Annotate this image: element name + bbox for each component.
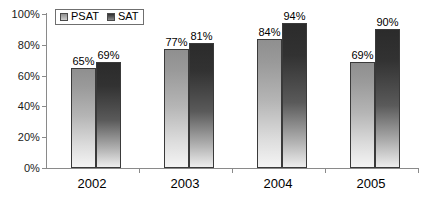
legend-swatch-icon: [107, 13, 115, 21]
legend-swatch-icon: [60, 13, 68, 21]
legend-item-psat: PSAT: [60, 11, 99, 22]
bar-sat-2002: 69%: [96, 62, 121, 168]
bar-chart: 100% 80% 60% 40% 20% 0% 65% 69%: [0, 0, 427, 204]
bar-value-label: 94%: [283, 10, 305, 22]
y-tick-mark: [42, 106, 46, 107]
x-axis-label-2004: 2004: [264, 176, 293, 191]
x-tick-mark: [139, 168, 140, 173]
bar-value-label: 65%: [72, 55, 94, 67]
legend-label-sat: SAT: [118, 11, 139, 22]
y-tick-mark: [42, 137, 46, 138]
legend-item-sat: SAT: [107, 11, 139, 22]
bar-sat-2004: 94%: [282, 23, 307, 168]
bar-value-label: 69%: [97, 49, 119, 61]
bar-sat-2005: 90%: [375, 29, 400, 168]
bar-psat-2003: 77%: [164, 49, 189, 168]
y-tick-label: 40%: [18, 100, 40, 112]
x-axis-label-2002: 2002: [78, 176, 107, 191]
bar-value-label: 69%: [351, 49, 373, 61]
bar-sat-2003: 81%: [189, 43, 214, 168]
x-tick-mark: [232, 168, 233, 173]
y-tick-mark: [42, 45, 46, 46]
y-tick-label: 80%: [18, 39, 40, 51]
plot-area: 100% 80% 60% 40% 20% 0% 65% 69%: [46, 14, 418, 168]
bar-psat-2005: 69%: [350, 62, 375, 168]
bar-psat-2004: 84%: [257, 39, 282, 168]
bar-value-label: 90%: [376, 16, 398, 28]
y-tick-label: 20%: [18, 131, 40, 143]
bar-psat-2002: 65%: [71, 68, 96, 168]
legend-label-psat: PSAT: [71, 11, 99, 22]
bar-value-label: 77%: [165, 36, 187, 48]
x-tick-mark: [418, 168, 419, 173]
x-tick-mark: [325, 168, 326, 173]
chart-legend: PSAT SAT: [55, 9, 144, 25]
y-tick-label: 100%: [11, 8, 40, 20]
y-tick-mark: [42, 14, 46, 15]
y-tick-label: 0%: [24, 162, 40, 174]
y-tick-label: 60%: [18, 70, 40, 82]
bar-value-label: 84%: [258, 26, 280, 38]
bar-value-label: 81%: [190, 30, 212, 42]
y-tick-mark: [42, 168, 46, 169]
y-tick-mark: [42, 76, 46, 77]
x-axis-label-2005: 2005: [357, 176, 386, 191]
x-axis-label-2003: 2003: [171, 176, 200, 191]
